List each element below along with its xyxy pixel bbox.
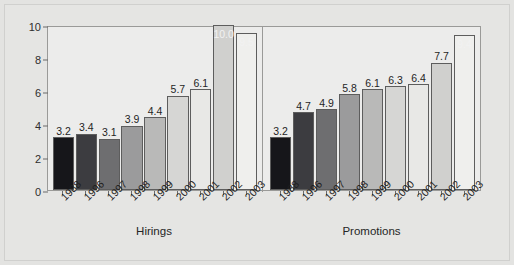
bar: 6.4 — [408, 84, 429, 190]
bar-group-hirings: 3.23.43.13.94.45.76.110.09.5 — [48, 25, 262, 190]
bar-value-label: 6.3 — [388, 75, 403, 86]
figure: 0246810 3.23.43.13.94.45.76.110.09.5 3.2… — [0, 0, 514, 265]
bar: 6.1 — [362, 89, 383, 190]
bar-group-promotions: 3.24.74.95.86.16.36.47.79.4 — [263, 25, 482, 190]
bar-value-label: 3.9 — [125, 114, 140, 125]
bar-value-label: 3.1 — [102, 127, 117, 138]
bar-value-label: 4.4 — [148, 106, 163, 117]
bar: 5.7 — [167, 96, 188, 190]
bar-value-label: 3.2 — [273, 126, 288, 137]
bar-value-label: 5.8 — [342, 83, 357, 94]
y-axis-tick-mark — [43, 192, 48, 193]
group-caption: Hirings — [136, 226, 172, 238]
bar-value-label: 9.4 — [457, 39, 472, 50]
plot-area: 0246810 3.23.43.13.94.45.76.110.09.5 3.2… — [47, 26, 481, 191]
bar: 6.3 — [385, 86, 406, 190]
bars-promotions: 3.24.74.95.86.16.36.47.79.4 — [263, 25, 482, 190]
bar: 9.4 — [454, 35, 475, 190]
bar: 5.8 — [339, 94, 360, 190]
bar-value-label: 9.5 — [239, 37, 254, 48]
bars-hirings: 3.23.43.13.94.45.76.110.09.5 — [48, 25, 262, 190]
group-caption: Promotions — [342, 226, 400, 238]
bar: 7.7 — [431, 63, 452, 190]
bar: 9.5 — [236, 33, 257, 190]
bar-value-label: 4.7 — [296, 101, 311, 112]
bar-value-label: 3.4 — [79, 122, 94, 133]
bar: 6.1 — [190, 89, 211, 190]
bar-value-label: 6.1 — [193, 78, 208, 89]
bar: 4.9 — [316, 109, 337, 190]
bar-value-label: 7.7 — [434, 51, 449, 62]
bar: 10.0 — [213, 25, 234, 190]
bar-value-label: 6.4 — [411, 73, 426, 84]
bar-value-label: 4.9 — [319, 98, 334, 109]
bar-value-label: 3.2 — [56, 126, 71, 137]
bar-value-label: 6.1 — [365, 78, 380, 89]
bar-value-label: 10.0 — [213, 29, 233, 40]
bar: 4.7 — [293, 112, 314, 190]
bar: 4.4 — [144, 117, 165, 190]
bar-value-label: 5.7 — [171, 84, 186, 95]
